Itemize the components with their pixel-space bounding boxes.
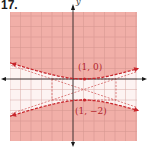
x-axis-right-arrow-icon xyxy=(142,77,147,81)
lower-vertex-label: (1, −2) xyxy=(75,106,107,116)
upper-vertex-label: (1, 0) xyxy=(78,62,102,72)
y-axis-down-arrow-icon xyxy=(71,142,75,147)
vertex-upper xyxy=(83,77,86,80)
x-axis-left-arrow-icon xyxy=(1,77,6,81)
hyperbola-graph xyxy=(0,0,150,148)
vertex-lower xyxy=(83,98,86,101)
y-axis-up-arrow-icon xyxy=(71,4,75,10)
